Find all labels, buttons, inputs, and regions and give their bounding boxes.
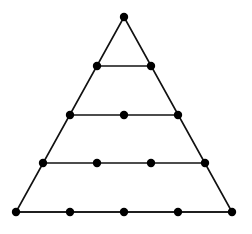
horizontal-lines (16, 66, 232, 212)
grid-point-r4-c2 (93, 159, 101, 167)
grid-point-r4-c4 (201, 159, 209, 167)
grid-point-r3-c3 (174, 111, 182, 119)
grid-point-r5-c3 (120, 208, 128, 216)
grid-point-r4-c1 (39, 159, 47, 167)
grid-point-r5-c1 (12, 208, 20, 216)
grid-point-r5-c5 (228, 208, 236, 216)
grid-point-r5-c2 (66, 208, 74, 216)
grid-point-r3-c2 (120, 111, 128, 119)
grid-points (12, 13, 236, 216)
grid-point-r4-c3 (147, 159, 155, 167)
grid-point-r2-c2 (147, 62, 155, 70)
grid-point-r1-c1 (120, 13, 128, 21)
grid-point-r5-c4 (174, 208, 182, 216)
triangle-dot-diagram (0, 0, 252, 234)
grid-point-r3-c1 (66, 111, 74, 119)
grid-point-r2-c1 (93, 62, 101, 70)
